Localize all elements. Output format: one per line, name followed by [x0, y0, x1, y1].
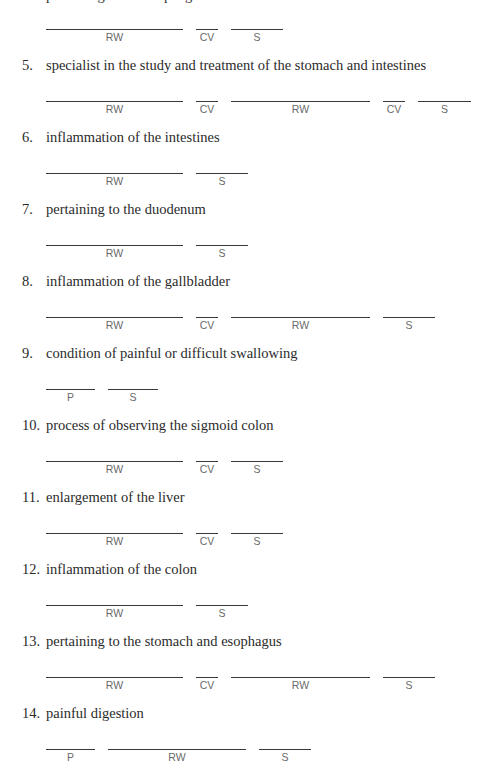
- answer-blank-s[interactable]: S: [383, 317, 435, 336]
- question-number: 6.: [22, 129, 46, 146]
- answer-blank-rw[interactable]: RW: [46, 101, 183, 120]
- question-text: inflammation of the gallbladder: [46, 273, 230, 289]
- question-5: 5.specialist in the study and treatment …: [22, 57, 426, 74]
- answer-blank-rw[interactable]: RW: [108, 749, 246, 768]
- answer-blank-s[interactable]: S: [108, 389, 158, 408]
- question-13: 13.pertaining to the stomach and esophag…: [22, 633, 282, 650]
- answer-blank-s[interactable]: S: [231, 29, 283, 48]
- blank-label: CV: [196, 319, 218, 331]
- blank-label: CV: [196, 103, 218, 115]
- answer-blank-cv[interactable]: CV: [196, 461, 218, 480]
- question-10: 10.process of observing the sigmoid colo…: [22, 417, 274, 434]
- answer-blank-p[interactable]: P: [46, 389, 95, 408]
- blank-label: RW: [46, 247, 183, 259]
- blank-label: S: [196, 247, 248, 259]
- blank-label: RW: [46, 31, 183, 43]
- question-7: 7.pertaining to the duodenum: [22, 201, 206, 218]
- question-14: 14.painful digestion: [22, 705, 144, 722]
- blank-label: CV: [196, 535, 218, 547]
- answer-blank-rw[interactable]: RW: [46, 317, 183, 336]
- blank-label: S: [418, 103, 471, 115]
- blank-label: RW: [46, 319, 183, 331]
- blank-label: P: [46, 391, 95, 403]
- question-text: pertaining to the stomach and esophagus: [46, 633, 282, 649]
- question-number: 12.: [22, 561, 46, 578]
- question-text: inflammation of the intestines: [46, 129, 220, 145]
- question-8: 8.inflammation of the gallbladder: [22, 273, 230, 290]
- question-number: 11.: [22, 489, 46, 506]
- question-12: 12.inflammation of the colon: [22, 561, 197, 578]
- answer-blank-rw[interactable]: RW: [46, 461, 183, 480]
- blank-label: RW: [46, 607, 183, 619]
- blank-label: CV: [196, 679, 218, 691]
- answer-blank-s[interactable]: S: [196, 245, 248, 264]
- blank-label: CV: [196, 31, 218, 43]
- answer-blank-rw[interactable]: RW: [46, 245, 183, 264]
- question-number: 8.: [22, 273, 46, 290]
- question-number: 9.: [22, 345, 46, 362]
- answer-blank-cv[interactable]: CV: [383, 101, 405, 120]
- blank-label: RW: [46, 679, 183, 691]
- answer-blank-s[interactable]: S: [383, 677, 435, 696]
- question-number: 13.: [22, 633, 46, 650]
- answer-blank-rw[interactable]: RW: [46, 29, 183, 48]
- answer-blank-cv[interactable]: CV: [196, 101, 218, 120]
- question-number: 10.: [22, 417, 46, 434]
- blank-label: S: [231, 463, 283, 475]
- blank-label: S: [231, 535, 283, 547]
- answer-blank-s[interactable]: S: [259, 749, 311, 768]
- answer-blank-rw[interactable]: RW: [46, 533, 183, 552]
- answer-blank-cv[interactable]: CV: [196, 317, 218, 336]
- question-text: specialist in the study and treatment of…: [46, 57, 426, 73]
- answer-blank-s[interactable]: S: [231, 533, 283, 552]
- blank-label: RW: [231, 103, 370, 115]
- answer-blank-cv[interactable]: CV: [196, 677, 218, 696]
- blank-label: S: [231, 31, 283, 43]
- answer-blank-rw[interactable]: RW: [231, 101, 370, 120]
- blank-label: S: [108, 391, 158, 403]
- blank-label: S: [196, 607, 248, 619]
- answer-blank-rw[interactable]: RW: [46, 173, 183, 192]
- answer-blank-p[interactable]: P: [46, 749, 95, 768]
- blank-label: RW: [46, 103, 183, 115]
- answer-blank-s[interactable]: S: [418, 101, 471, 120]
- blank-label: RW: [108, 751, 246, 763]
- answer-blank-rw[interactable]: RW: [231, 677, 370, 696]
- answer-blank-rw[interactable]: RW: [231, 317, 370, 336]
- answer-blank-cv[interactable]: CV: [196, 533, 218, 552]
- question-number: 14.: [22, 705, 46, 722]
- blank-label: CV: [383, 103, 405, 115]
- blank-label: CV: [196, 463, 218, 475]
- question-11: 11.enlargement of the liver: [22, 489, 185, 506]
- question-text: painful digestion: [46, 705, 144, 721]
- answer-blank-cv[interactable]: CV: [196, 29, 218, 48]
- question-text: inflammation of the colon: [46, 561, 197, 577]
- question-number: 7.: [22, 201, 46, 218]
- blank-label: RW: [231, 319, 370, 331]
- blank-label: RW: [46, 535, 183, 547]
- blank-label: S: [383, 679, 435, 691]
- answer-blank-rw[interactable]: RW: [46, 605, 183, 624]
- answer-blank-s[interactable]: S: [196, 173, 248, 192]
- question-text: condition of painful or difficult swallo…: [46, 345, 297, 361]
- blank-label: RW: [231, 679, 370, 691]
- blank-label: S: [383, 319, 435, 331]
- clipped-previous-question: pertaining to the esophagus: [46, 0, 205, 4]
- blank-label: RW: [46, 463, 183, 475]
- blank-label: S: [259, 751, 311, 763]
- answer-blank-rw[interactable]: RW: [46, 677, 183, 696]
- question-number: 5.: [22, 57, 46, 74]
- answer-blank-s[interactable]: S: [196, 605, 248, 624]
- blank-label: S: [196, 175, 248, 187]
- answer-blank-s[interactable]: S: [231, 461, 283, 480]
- question-6: 6.inflammation of the intestines: [22, 129, 220, 146]
- question-text: process of observing the sigmoid colon: [46, 417, 274, 433]
- question-text: pertaining to the duodenum: [46, 201, 206, 217]
- blank-label: RW: [46, 175, 183, 187]
- blank-label: P: [46, 751, 95, 763]
- question-text: enlargement of the liver: [46, 489, 185, 505]
- question-9: 9.condition of painful or difficult swal…: [22, 345, 297, 362]
